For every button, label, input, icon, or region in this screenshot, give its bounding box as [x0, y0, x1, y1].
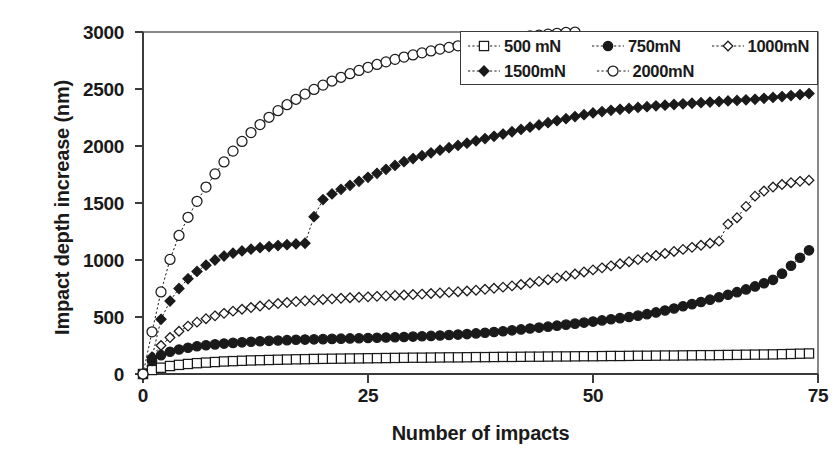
open-circle-icon [596, 63, 630, 79]
open-square-icon [467, 38, 501, 54]
chart-figure: Impact depth increase (nm) Number of imp… [0, 0, 840, 460]
legend-row-2: 1500mN 2000mN [467, 59, 694, 83]
legend-item-2000mn: 2000mN [596, 59, 695, 83]
legend-item-500mn: 500 mN [467, 34, 561, 58]
legend-label: 500 mN [504, 37, 561, 56]
legend-label: 1500mN [504, 62, 566, 81]
legend-item-750mn: 750mN [591, 34, 681, 58]
open-diamond-icon [711, 38, 745, 54]
legend-item-1000mn: 1000mN [711, 34, 810, 58]
legend-item-1500mn: 1500mN [467, 59, 566, 83]
legend-label: 2000mN [633, 62, 695, 81]
legend-label: 1000mN [748, 37, 810, 56]
legend-label: 750mN [628, 37, 681, 56]
filled-diamond-icon [467, 63, 501, 79]
series-1000mn [138, 175, 814, 378]
filled-circle-icon [591, 38, 625, 54]
legend-row-1: 500 mN 750mN 1000mN [467, 34, 809, 58]
legend: 500 mN 750mN 1000mN 1500mN 2000mN [460, 31, 818, 85]
